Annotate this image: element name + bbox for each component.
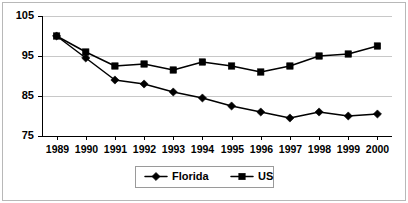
x-tick-label-1989: 1989: [46, 143, 70, 155]
x-tick-label-1991: 1991: [104, 143, 128, 155]
legend-marker-square-icon: [239, 173, 245, 179]
datapoint-us-1991: [112, 63, 118, 69]
plot-area-background: [42, 16, 392, 136]
datapoint-us-2000: [374, 43, 380, 49]
x-tick-label-1998: 1998: [308, 143, 332, 155]
x-tick-label-1993: 1993: [162, 143, 186, 155]
y-axis-ticks: [38, 17, 42, 137]
y-tick-label-95: 95: [22, 49, 34, 61]
legend-label-florida: Florida: [172, 170, 210, 182]
x-axis-tick-labels: 1989199019911992199319941995199619971998…: [46, 143, 390, 155]
y-tick-label-85: 85: [22, 89, 34, 101]
chart-container: 758595105 198919901991199219931994199519…: [0, 0, 408, 203]
y-tick-label-105: 105: [16, 9, 34, 21]
y-axis-tick-labels: 758595105: [16, 9, 34, 141]
datapoint-us-1997: [287, 63, 293, 69]
datapoint-us-1989: [53, 33, 59, 39]
x-tick-label-1992: 1992: [133, 143, 157, 155]
datapoint-us-1996: [258, 69, 264, 75]
datapoint-us-1999: [345, 51, 351, 57]
chart-legend: FloridaUS: [136, 167, 274, 188]
x-tick-label-1999: 1999: [337, 143, 361, 155]
datapoint-us-1998: [316, 53, 322, 59]
datapoint-us-1993: [170, 67, 176, 73]
x-tick-label-1996: 1996: [250, 143, 274, 155]
datapoint-us-1995: [228, 63, 234, 69]
datapoint-us-1994: [199, 59, 205, 65]
y-tick-label-75: 75: [22, 129, 34, 141]
line-chart: 758595105 198919901991199219931994199519…: [0, 0, 408, 203]
x-tick-label-1994: 1994: [191, 143, 215, 155]
x-tick-label-1990: 1990: [75, 143, 99, 155]
x-tick-label-1997: 1997: [279, 143, 303, 155]
datapoint-us-1992: [141, 61, 147, 67]
legend-label-us: US: [258, 170, 273, 182]
datapoint-us-1990: [83, 49, 89, 55]
x-tick-label-1995: 1995: [221, 143, 245, 155]
x-tick-label-2000: 2000: [366, 143, 390, 155]
